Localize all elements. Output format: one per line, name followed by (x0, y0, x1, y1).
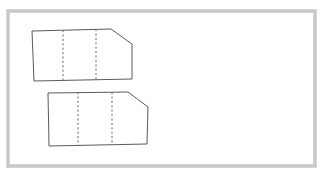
lower-panel-group (48, 92, 148, 146)
figure-svg (0, 0, 323, 176)
upper-panel-outline (32, 29, 132, 81)
upper-panel-group (32, 29, 132, 81)
drawing-canvas (0, 0, 323, 176)
lower-panel-outline (48, 92, 148, 146)
